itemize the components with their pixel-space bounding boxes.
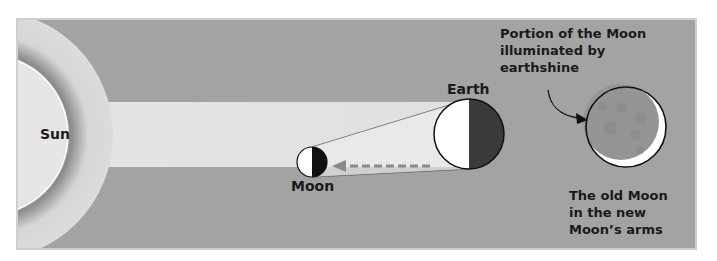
old-moon-caption-line: in the new [569,204,699,221]
earth [434,99,505,169]
earth-label: Earth [447,81,490,97]
earthshine-caption-line: illuminated by [500,42,660,59]
old-moon-caption: The old Moon in the new Moon’s arms [569,187,699,238]
earthshine-caption-line: Portion of the Moon [500,25,660,42]
sun-label: Sun [40,126,70,142]
moon [297,147,328,177]
old-moon-caption-line: The old Moon [569,187,699,204]
earthshine-caption-line: earthshine [500,59,660,76]
old-moon-caption-line: Moon’s arms [569,221,699,238]
moon-label: Moon [291,178,334,194]
earthshine-caption: Portion of the Moon illuminated by earth… [500,25,660,76]
